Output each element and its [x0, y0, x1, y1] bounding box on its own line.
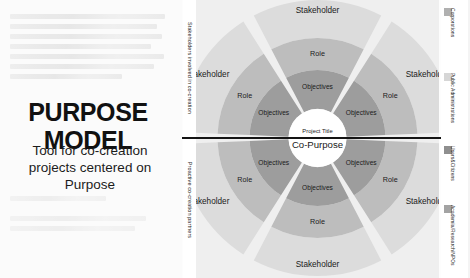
legend-label: Users&Citizens	[450, 146, 455, 181]
left-info-panel: PURPOSE MODEL Tool for co-creation proje…	[0, 0, 182, 278]
sector-top-left-role-label: Role	[237, 91, 252, 100]
purpose-model-diagram: StakeholderRoleObjectivesStakeholderRole…	[196, 0, 439, 278]
legend-label: Academia/Research/NPOs	[450, 205, 455, 266]
project-name-label: Co-Purpose	[292, 139, 343, 150]
axis-label-proactive-partners: Proactive co-creation partners	[187, 162, 193, 238]
sector-bottom-right-stakeholder-label: Stakeholder	[406, 197, 439, 206]
background-placeholder-text-bottom	[10, 196, 170, 236]
sector-top-center-role-label: Role	[310, 49, 325, 58]
sector-bottom-center-role-label: Role	[310, 217, 325, 226]
legend-label: Public Administrations	[450, 73, 455, 123]
background-placeholder-text-top	[10, 14, 170, 84]
axis-label-stakeholders-involved: Stakeholders involved in co-creation	[187, 22, 193, 114]
sector-bottom-center-objectives-label: Objectives	[302, 184, 333, 192]
sector-bottom-center-stakeholder-label: Stakeholder	[296, 260, 340, 269]
sector-top-center-stakeholder-label: Stakeholder	[296, 6, 340, 15]
sector-top-left-stakeholder-label: Stakeholder	[196, 70, 230, 79]
sector-top-right-role-label: Role	[383, 91, 398, 100]
sector-top-center-objectives-label: Objectives	[302, 83, 333, 91]
sector-bottom-right-role-label: Role	[383, 175, 398, 184]
sector-top-right-stakeholder-label: Stakeholder	[406, 70, 439, 79]
project-title-label: Project Title	[302, 128, 332, 134]
sector-bottom-left-stakeholder-label: Stakeholder	[196, 197, 230, 206]
purpose-model-screenshot: PURPOSE MODEL Tool for co-creation proje…	[0, 0, 470, 278]
sector-bottom-right-objectives-label: Objectives	[346, 159, 377, 167]
page-subtitle: Tool for co-creation projects centered o…	[8, 142, 172, 193]
axis-label-strip: Stakeholders involved in co-creation Pro…	[183, 0, 196, 278]
legend-label: Corporations	[450, 8, 455, 37]
sector-bottom-left-objectives-label: Objectives	[258, 159, 289, 167]
sector-top-left-objectives-label: Objectives	[258, 109, 289, 117]
legend: Corporations Public Administrations User…	[441, 0, 470, 278]
sector-bottom-left-role-label: Role	[237, 175, 252, 184]
sector-top-right-objectives-label: Objectives	[346, 109, 377, 117]
radial-diagram-svg: StakeholderRoleObjectivesStakeholderRole…	[196, 0, 439, 278]
horizontal-divider	[182, 137, 444, 139]
